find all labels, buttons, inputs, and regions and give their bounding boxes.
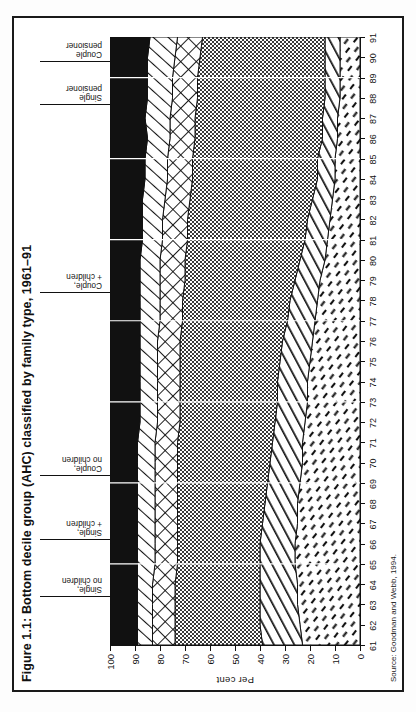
x-axis-tick-mark xyxy=(360,463,365,464)
x-axis-tick-label: 90 xyxy=(368,53,378,63)
x-axis-tick-label: 75 xyxy=(368,357,378,367)
y-axis-tick-mark xyxy=(160,646,161,651)
legend-leader-line xyxy=(40,61,110,62)
x-axis-tick-label: 66 xyxy=(368,540,378,550)
x-axis-tick-mark xyxy=(360,98,365,99)
x-axis-tick-label: 80 xyxy=(368,256,378,266)
x-axis-tick-label: 74 xyxy=(368,378,378,388)
x-axis-tick-mark xyxy=(360,260,365,261)
y-axis-tick-mark xyxy=(360,646,361,651)
x-axis-tick-mark xyxy=(360,422,365,423)
x-axis-tick-mark xyxy=(360,78,365,79)
x-axis-tick-label: 63 xyxy=(368,600,378,610)
y-axis-tick-mark xyxy=(110,646,111,651)
x-axis-tick-mark xyxy=(360,361,365,362)
x-axis-tick-label: 87 xyxy=(368,114,378,124)
legend-leader-line xyxy=(40,596,110,597)
legend-label-couple-pensioner: Couple pensioner xyxy=(32,41,102,59)
legend-label-single-pensioner: Single pensioner xyxy=(32,84,102,102)
x-axis-tick-label: 79 xyxy=(368,276,378,286)
y-axis-tick-mark xyxy=(335,646,336,651)
x-axis-tick-mark xyxy=(360,219,365,220)
y-axis-tick-label: 10 xyxy=(330,654,341,676)
x-axis-tick-label: 83 xyxy=(368,195,378,205)
x-axis-tick-label: 85 xyxy=(368,155,378,165)
x-axis-tick-label: 64 xyxy=(368,580,378,590)
x-axis-tick-mark xyxy=(360,341,365,342)
y-axis-tick-label: 20 xyxy=(305,654,316,676)
x-axis-tick-mark xyxy=(360,138,365,139)
y-axis-tick-label: 50 xyxy=(230,654,241,676)
y-axis-tick-mark xyxy=(285,646,286,651)
y-axis-tick-mark xyxy=(310,646,311,651)
x-axis-tick-mark xyxy=(360,564,365,565)
y-axis-tick-mark xyxy=(260,646,261,651)
x-axis-tick-mark xyxy=(360,503,365,504)
legend-leader-line xyxy=(40,104,110,105)
stacked-area-svg xyxy=(110,37,360,645)
legend-label-couple-children: Couple, + children xyxy=(32,272,102,290)
x-axis-tick-label: 81 xyxy=(368,236,378,246)
x-axis-tick-label: 70 xyxy=(368,459,378,469)
legend-label-single-children: Single, + children xyxy=(32,519,102,537)
x-axis-tick-label: 82 xyxy=(368,215,378,225)
legend-label-single-no-children: Single, no children xyxy=(32,576,102,594)
x-axis-tick-label: 78 xyxy=(368,296,378,306)
x-axis-tick-label: 65 xyxy=(368,560,378,570)
y-axis-tick-label: 80 xyxy=(155,654,166,676)
y-axis-tick-label: 70 xyxy=(180,654,191,676)
y-axis-tick-mark xyxy=(135,646,136,651)
x-axis-tick-mark xyxy=(360,300,365,301)
x-axis-tick-mark xyxy=(360,280,365,281)
x-axis-tick-label: 88 xyxy=(368,94,378,104)
x-axis-tick-mark xyxy=(360,625,365,626)
x-axis-tick-label: 76 xyxy=(368,337,378,347)
x-axis-tick-label: 77 xyxy=(368,317,378,327)
legend-leader-line xyxy=(40,475,110,476)
legend-leader-line xyxy=(40,539,110,540)
x-axis-tick-label: 72 xyxy=(368,418,378,428)
x-axis-tick-mark xyxy=(360,442,365,443)
page-background: Figure 1.1: Bottom decile group (AHC) cl… xyxy=(0,0,416,712)
legend-label-couple-no-children: Couple, no children xyxy=(32,455,102,473)
x-axis-tick-mark xyxy=(360,523,365,524)
x-axis-tick-label: 84 xyxy=(368,175,378,185)
y-axis-tick-label: 60 xyxy=(205,654,216,676)
x-axis-tick-label: 86 xyxy=(368,134,378,144)
y-axis-tick-label: 0 xyxy=(355,654,366,676)
x-axis-tick-mark xyxy=(360,159,365,160)
x-axis-tick-label: 69 xyxy=(368,479,378,489)
chart-plot-area xyxy=(110,37,361,646)
y-axis-tick-mark xyxy=(185,646,186,651)
x-axis-tick-mark xyxy=(360,37,365,38)
source-note: Source: Goodman and Webb, 1994. xyxy=(389,554,398,682)
x-axis-tick-mark xyxy=(360,382,365,383)
x-axis-tick-mark xyxy=(360,321,365,322)
rotated-figure-content: Figure 1.1: Bottom decile group (AHC) cl… xyxy=(14,18,402,690)
x-axis-tick-label: 68 xyxy=(368,499,378,509)
x-axis-tick-mark xyxy=(360,57,365,58)
x-axis-tick-label: 67 xyxy=(368,519,378,529)
x-axis-tick-mark xyxy=(360,645,365,646)
x-axis-tick-mark xyxy=(360,483,365,484)
x-axis-tick-label: 89 xyxy=(368,74,378,84)
x-axis-tick-label: 73 xyxy=(368,398,378,408)
x-axis-tick-mark xyxy=(360,118,365,119)
x-axis-tick-label: 71 xyxy=(368,438,378,448)
x-axis-tick-mark xyxy=(360,544,365,545)
x-axis-tick-mark xyxy=(360,240,365,241)
y-axis-tick-mark xyxy=(210,646,211,651)
y-axis-tick-label: 100 xyxy=(105,654,116,676)
x-axis-tick-mark xyxy=(360,604,365,605)
figure-frame: Figure 1.1: Bottom decile group (AHC) cl… xyxy=(12,16,404,692)
x-axis-tick-label: 61 xyxy=(368,641,378,651)
x-axis-tick-mark xyxy=(360,199,365,200)
y-axis-tick-label: 90 xyxy=(130,654,141,676)
x-axis-tick-mark xyxy=(360,584,365,585)
y-axis-tick-label: 40 xyxy=(255,654,266,676)
x-axis-tick-mark xyxy=(360,179,365,180)
legend-leader-line xyxy=(40,292,110,293)
x-axis-tick-label: 62 xyxy=(368,621,378,631)
y-axis-tick-label: 30 xyxy=(280,654,291,676)
y-axis-tick-mark xyxy=(235,646,236,651)
